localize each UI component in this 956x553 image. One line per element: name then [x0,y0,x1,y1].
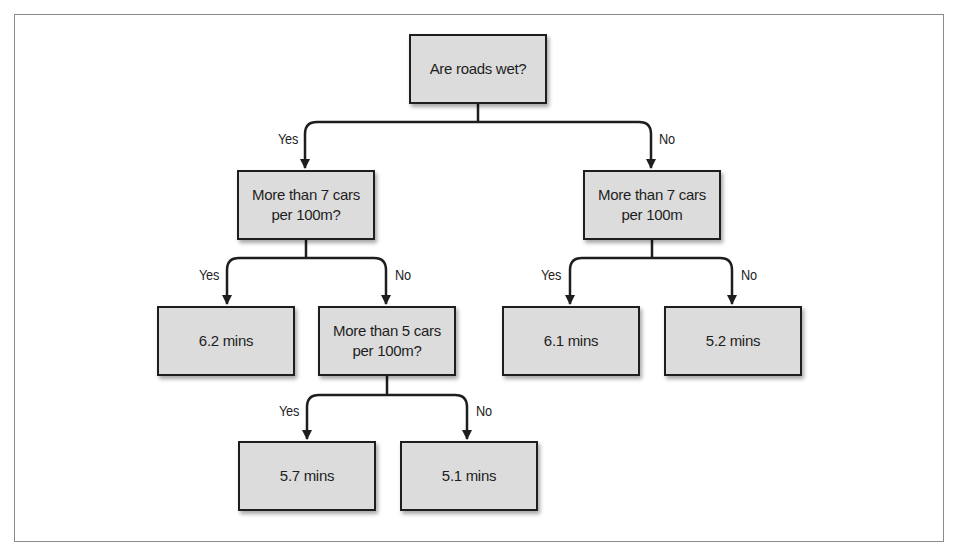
edge-dry-no [652,258,732,304]
node-leaf-5-1-mins: 5.1 mins [400,441,538,511]
edge-light-no [387,395,467,439]
node-wet-traffic-check: More than 7 cars per 100m? [237,170,375,240]
node-dry-traffic-check: More than 7 cars per 100m [583,170,721,240]
edge-label-wet-yes: Yes [199,266,219,283]
edge-label-light-no: No [476,402,492,419]
edge-label-root-no: No [659,130,675,147]
edge-label-dry-no: No [741,266,757,283]
edge-light-yes [307,376,387,439]
edge-label-dry-yes: Yes [541,266,561,283]
edge-label-root-yes: Yes [278,130,298,147]
node-root-roads-wet: Are roads wet? [409,34,547,104]
node-leaf-5-2-mins: 5.2 mins [664,306,802,376]
node-wet-light-traffic-check: More than 5 cars per 100m? [318,306,456,376]
node-leaf-6-1-mins: 6.1 mins [502,306,640,376]
node-leaf-6-2-mins: 6.2 mins [157,306,295,376]
edge-wet-no [306,258,386,304]
edge-wet-yes [227,240,306,304]
edge-root-yes [305,104,478,168]
node-leaf-5-7-mins: 5.7 mins [238,441,376,511]
edge-label-light-yes: Yes [279,402,299,419]
edge-root-no [478,122,651,168]
edge-dry-yes [570,240,652,304]
edge-label-wet-no: No [395,266,411,283]
